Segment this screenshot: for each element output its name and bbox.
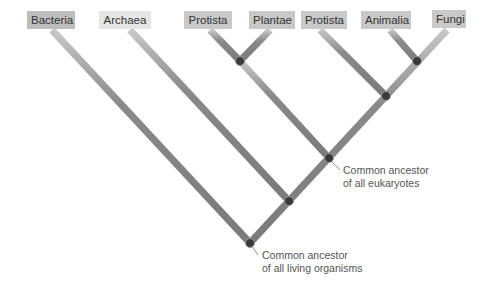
- node-archaea-eukarya: [285, 197, 294, 206]
- taxon-label-protista-1: Protista: [184, 11, 232, 29]
- leader-eukaryotes: [331, 161, 340, 170]
- taxon-label-bacteria: Bacteria: [27, 11, 75, 29]
- node-eukaryotes: [325, 154, 334, 163]
- annotation-living-line1: Common ancestor: [262, 249, 362, 262]
- taxon-label-protista-2: Protista: [301, 11, 347, 29]
- branch-plant-clade: [240, 61, 329, 158]
- tree-branches: [0, 0, 486, 286]
- branch-protista-2: [320, 30, 386, 96]
- annotation-eukaryotes-line2: of all eukaryotes: [343, 177, 429, 190]
- taxon-label-animalia: Animalia: [361, 11, 411, 29]
- taxon-label-archaea: Archaea: [99, 11, 151, 29]
- branch-archaea: [130, 30, 289, 201]
- node-root: [246, 239, 255, 248]
- branch-animalia: [390, 30, 417, 61]
- node-opisthokont: [382, 92, 391, 101]
- taxon-label-fungi: Fungi: [432, 10, 466, 28]
- annotation-eukaryotes: Common ancestor of all eukaryotes: [343, 164, 429, 190]
- branch-bacteria: [52, 30, 250, 243]
- taxon-label-plantae: Plantae: [249, 11, 295, 29]
- annotation-living: Common ancestor of all living organisms: [262, 249, 362, 275]
- leader-living: [252, 246, 258, 255]
- branch-plantae: [240, 30, 270, 61]
- annotation-living-line2: of all living organisms: [262, 262, 362, 275]
- phylogenetic-tree: Bacteria Archaea Protista Plantae Protis…: [0, 0, 486, 286]
- node-plant-protista: [236, 57, 245, 66]
- node-animal-fungi: [413, 57, 422, 66]
- branch-protista-1: [210, 30, 240, 61]
- annotation-eukaryotes-line1: Common ancestor: [343, 164, 429, 177]
